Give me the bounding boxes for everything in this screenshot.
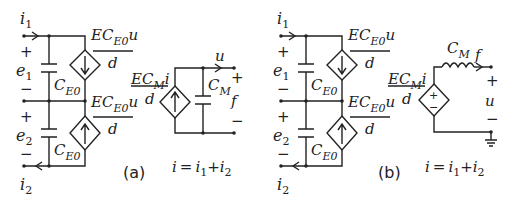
equation-a: i=i1+i2 bbox=[172, 158, 232, 179]
right-wire-top bbox=[175, 68, 234, 86]
label-ce0-bottom: CE0 bbox=[54, 141, 81, 163]
panel-label-a: (a) bbox=[123, 163, 145, 182]
e1-plus: + bbox=[277, 43, 290, 61]
controlled-current-source-top bbox=[70, 50, 100, 80]
e1-minus: − bbox=[20, 80, 33, 98]
inductor-cm bbox=[442, 63, 474, 67]
node-dot bbox=[201, 131, 205, 135]
arrow-down-icon bbox=[81, 56, 89, 74]
label-i2: i2 bbox=[20, 175, 32, 197]
terminal-dot bbox=[489, 65, 493, 69]
arrow-up-icon bbox=[171, 92, 179, 112]
label-ce0-bottom: CE0 bbox=[311, 141, 338, 163]
ground-icon bbox=[485, 132, 497, 146]
output-minus: − bbox=[486, 110, 499, 128]
terminal-dot bbox=[232, 131, 236, 135]
panel-b: + − i1 i2 + e1 − + e2 − CE0 CE0 ECE0u d … bbox=[273, 9, 499, 197]
right-wire-bottom bbox=[434, 116, 491, 132]
top-wire bbox=[281, 36, 342, 50]
gain-fraction-top: ECE0u d bbox=[90, 26, 138, 72]
arrow-down-icon bbox=[338, 56, 346, 74]
svg-text:d: d bbox=[402, 90, 412, 108]
gain-fraction-bottom: ECE0u d bbox=[90, 93, 138, 138]
terminal-dot bbox=[279, 99, 283, 103]
controlled-voltage-source-right: + − bbox=[419, 84, 449, 116]
top-wire bbox=[24, 36, 85, 50]
svg-text:ECE0u: ECE0u bbox=[90, 26, 138, 48]
e2-plus: + bbox=[277, 108, 290, 126]
svg-text:ECMi: ECMi bbox=[387, 70, 427, 92]
gain-fraction-top: ECE0u d bbox=[347, 26, 395, 72]
svg-text:d: d bbox=[108, 54, 118, 72]
controlled-current-source-bottom bbox=[327, 116, 357, 150]
svg-text:ECMi: ECMi bbox=[130, 70, 170, 92]
equation-b: i=i1+i2 bbox=[425, 158, 485, 179]
svg-text:d: d bbox=[365, 54, 375, 72]
node-dot bbox=[340, 99, 344, 103]
controlled-current-source-bottom bbox=[70, 116, 100, 150]
label-cm-inductor: CM bbox=[447, 39, 470, 61]
label-f-port: f bbox=[230, 92, 239, 110]
svg-text:ECE0u: ECE0u bbox=[347, 93, 395, 115]
terminal-dot bbox=[279, 164, 283, 168]
panel-label-b: (b) bbox=[378, 163, 401, 182]
arrow-up-icon bbox=[81, 124, 89, 144]
label-u-output: u bbox=[215, 47, 225, 65]
controlled-current-source-top bbox=[327, 50, 357, 80]
label-ce0-top: CE0 bbox=[54, 76, 81, 98]
e2-plus: + bbox=[20, 108, 33, 126]
svg-text:d: d bbox=[365, 120, 375, 138]
node-dot bbox=[83, 99, 87, 103]
e1-minus: − bbox=[277, 80, 290, 98]
terminal-dot bbox=[279, 34, 283, 38]
node-dot bbox=[201, 66, 205, 70]
label-u-port: u bbox=[485, 92, 495, 110]
label-ce0-top: CE0 bbox=[311, 76, 338, 98]
terminal-dot bbox=[22, 34, 26, 38]
label-i1: i1 bbox=[20, 9, 32, 31]
e1-plus: + bbox=[20, 43, 33, 61]
e2-minus: − bbox=[277, 145, 290, 163]
node-dot bbox=[47, 34, 51, 38]
panel-a: i1 i2 + e1 − + e2 − CE0 CE0 ECE0u d ECE0… bbox=[16, 9, 244, 197]
gain-fraction-bottom: ECE0u d bbox=[347, 93, 395, 138]
svg-text:d: d bbox=[145, 90, 155, 108]
terminal-dot bbox=[22, 164, 26, 168]
node-dot bbox=[304, 164, 308, 168]
node-dot bbox=[47, 99, 51, 103]
e2-minus: − bbox=[20, 145, 33, 163]
label-i2: i2 bbox=[277, 175, 289, 197]
circuit-diagram: i1 i2 + e1 − + e2 − CE0 CE0 ECE0u d ECE0… bbox=[0, 0, 511, 197]
label-cm: CM bbox=[208, 76, 231, 98]
arrow-up-icon bbox=[338, 124, 346, 144]
right-wire-top bbox=[434, 67, 442, 84]
right-wire-bottom bbox=[175, 118, 234, 133]
node-dot bbox=[304, 34, 308, 38]
label-f-output: f bbox=[474, 46, 483, 64]
svg-text:ECE0u: ECE0u bbox=[347, 26, 395, 48]
svg-text:d: d bbox=[108, 120, 118, 138]
terminal-dot bbox=[22, 99, 26, 103]
output-plus: + bbox=[231, 69, 244, 87]
minus-sign-icon: − bbox=[429, 101, 438, 114]
node-dot bbox=[304, 99, 308, 103]
label-i1: i1 bbox=[277, 9, 289, 31]
node-dot bbox=[47, 164, 51, 168]
output-plus: + bbox=[486, 72, 499, 90]
output-minus: − bbox=[231, 112, 244, 130]
svg-text:ECE0u: ECE0u bbox=[90, 93, 138, 115]
